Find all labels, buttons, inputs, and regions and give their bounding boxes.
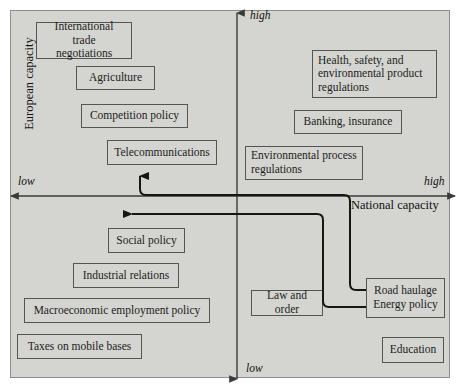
box-label: Road haulage Energy policy (373, 284, 438, 311)
box-label: Taxes on mobile bases (28, 340, 132, 354)
box-label: Law and order (257, 289, 317, 316)
vertical-axis-high-label: high (250, 9, 270, 21)
box-label: Education (390, 343, 437, 357)
box-international-trade-negotiations[interactable]: International trade negotiations (36, 22, 132, 59)
box-label: International trade negotiations (42, 20, 126, 61)
box-banking-insurance[interactable]: Banking, insurance (294, 110, 402, 134)
box-label: Industrial relations (83, 269, 170, 283)
box-taxes-on-mobile-bases[interactable]: Taxes on mobile bases (17, 334, 142, 359)
box-environmental-process-regulations[interactable]: Environmental process regulations (245, 146, 363, 180)
box-label: Competition policy (90, 109, 179, 123)
box-road-haulage-energy-policy[interactable]: Road haulage Energy policy (366, 278, 445, 318)
box-education[interactable]: Education (382, 337, 444, 363)
box-label: Health, safety, and environmental produc… (318, 54, 422, 95)
box-label: Telecommunications (114, 146, 210, 160)
box-label: Environmental process regulations (251, 149, 357, 176)
box-label: Banking, insurance (304, 115, 393, 129)
box-health-safety-environmental-product-regulations[interactable]: Health, safety, and environmental produc… (312, 50, 437, 98)
horizontal-axis-low-label: low (18, 175, 35, 187)
vertical-axis-low-label: low (246, 362, 263, 374)
box-social-policy[interactable]: Social policy (108, 228, 185, 253)
box-label: Agriculture (89, 71, 142, 85)
box-agriculture[interactable]: Agriculture (76, 66, 155, 90)
box-telecommunications[interactable]: Telecommunications (107, 140, 217, 165)
box-label: Social policy (116, 234, 176, 248)
box-industrial-relations[interactable]: Industrial relations (73, 263, 179, 288)
box-competition-policy[interactable]: Competition policy (81, 104, 188, 128)
box-macroeconomic-employment-policy[interactable]: Macroeconomic employment policy (24, 298, 210, 323)
horizontal-axis-high-label: high (424, 175, 444, 187)
diagram-canvas: European capacity high low low high Nati… (0, 0, 464, 391)
box-label: Macroeconomic employment policy (34, 304, 201, 318)
vertical-axis-title: European capacity (22, 24, 37, 144)
horizontal-axis-title: National capacity (351, 198, 439, 213)
box-law-and-order[interactable]: Law and order (251, 290, 323, 316)
